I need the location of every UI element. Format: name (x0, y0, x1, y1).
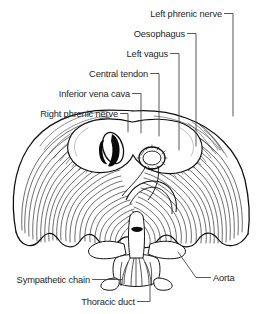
diaphragm-diagram: Left phrenic nerveOesophagusLeft vagusCe… (0, 0, 265, 314)
vertebral-body-block (113, 254, 160, 286)
label-right-phrenic-nerve: Right phrenic nerve (40, 109, 118, 119)
label-thoracic-duct: Thoracic duct (81, 297, 135, 307)
label-left-vagus: Left vagus (127, 49, 169, 59)
label-central-tendon: Central tendon (89, 69, 148, 79)
crural-column (129, 212, 145, 259)
label-left-phrenic-nerve: Left phrenic nerve (150, 9, 222, 19)
label-oesophagus: Oesophagus (134, 29, 186, 39)
label-sympathetic-chain: Sympathetic chain (17, 275, 90, 285)
label-aorta: Aorta (213, 273, 235, 283)
label-inferior-vena-cava: Inferior vena cava (59, 89, 131, 99)
